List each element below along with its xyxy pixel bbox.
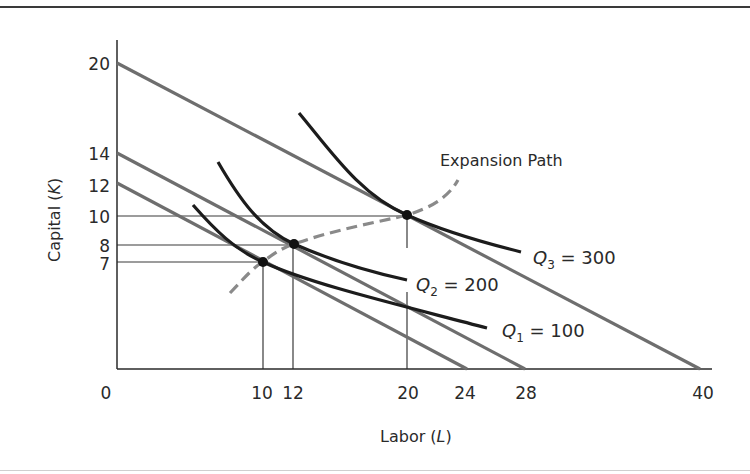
y-tick-14: 14: [88, 144, 110, 164]
x-tick-labels: 0 10 12 20 24 28 40: [101, 383, 714, 403]
q1-label: Q1 = 100: [502, 320, 585, 345]
y-axis-title: Capital (K): [45, 178, 64, 262]
x-tick-0: 0: [101, 383, 112, 403]
y-tick-12: 12: [88, 176, 110, 196]
x-tick-12: 12: [282, 383, 304, 403]
q2-label: Q2 = 200: [416, 274, 499, 299]
y-tick-7: 7: [99, 254, 110, 274]
x-tick-20: 20: [397, 383, 419, 403]
isocost-isoquant-chart: 20 14 12 10 8 7 0 10 12 20 24 28 40 Labo…: [0, 0, 750, 474]
isocost-line-2: [117, 153, 525, 369]
y-tick-10: 10: [88, 207, 110, 227]
axes: [117, 40, 712, 369]
tangency-point-q2: [289, 239, 299, 249]
expansion-path-label: Expansion Path: [440, 151, 563, 170]
x-tick-40: 40: [692, 383, 714, 403]
x-tick-28: 28: [515, 383, 537, 403]
tangency-point-q1: [258, 257, 268, 267]
x-tick-10: 10: [251, 383, 273, 403]
y-tick-8: 8: [99, 236, 110, 256]
isoquant-q1: [193, 205, 487, 328]
tangency-point-q3: [402, 210, 412, 220]
q3-label: Q3 = 300: [533, 247, 616, 272]
x-tick-24: 24: [454, 383, 476, 403]
guide-lines: [117, 216, 407, 369]
y-tick-labels: 20 14 12 10 8 7: [88, 54, 110, 274]
x-axis-title: Labor (L): [380, 427, 452, 446]
y-tick-20: 20: [88, 54, 110, 74]
